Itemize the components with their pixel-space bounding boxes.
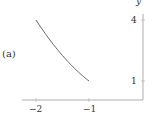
- function-curve: [36, 20, 89, 81]
- y-axis-label: y: [136, 0, 141, 6]
- y-tick-label-4: 4: [131, 16, 137, 25]
- x-tick-label-minus1: −1: [83, 105, 96, 114]
- x-tick-label-minus2: −2: [29, 105, 42, 114]
- y-tick-label-1: 1: [131, 77, 137, 86]
